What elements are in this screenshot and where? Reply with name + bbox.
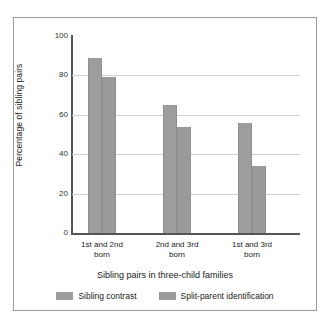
y-tick-80: 80 [28,71,68,79]
bar-sibling-contrast-2nd-3rd [163,105,177,233]
bar-split-parent-1st-2nd [102,77,116,233]
y-tick-20: 20 [28,190,68,198]
x-axis-title: Sibling pairs in three-child families [13,270,317,280]
y-tick-60: 60 [28,111,68,119]
bar-split-parent-1st-3rd [252,166,266,233]
chart-legend: Sibling contrast Split-parent identifica… [13,291,317,301]
legend-label-split-parent-identification: Split-parent identification [181,291,274,301]
legend-item-sibling-contrast: Sibling contrast [56,291,136,301]
x-group-label-1st-3rd: 1st and 3rd born [207,240,297,260]
y-axis-title: Percentage of sibling pairs [14,30,24,200]
x-group-label-1st-3rd-line1: 1st and 3rd [207,240,297,250]
legend-label-sibling-contrast: Sibling contrast [78,291,136,301]
bar-split-parent-2nd-3rd [177,127,191,233]
bar-sibling-contrast-1st-2nd [88,58,102,233]
plot-area [72,36,300,233]
y-tick-100: 100 [28,32,68,40]
legend-swatch-icon-split-parent-identification [159,292,176,300]
x-axis-line [71,233,300,235]
y-axis-tick-labels: 100 80 60 40 20 0 [24,36,68,233]
x-group-label-1st-3rd-line2: born [207,250,297,260]
bar-sibling-contrast-1st-3rd [238,123,252,233]
y-tick-40: 40 [28,150,68,158]
legend-item-split-parent-identification: Split-parent identification [159,291,274,301]
y-tick-0: 0 [28,229,68,237]
chart-figure: 100 80 60 40 20 0 Percentage of sibling … [0,0,331,324]
gridline-80 [72,75,300,76]
legend-swatch-icon-sibling-contrast [56,292,73,300]
